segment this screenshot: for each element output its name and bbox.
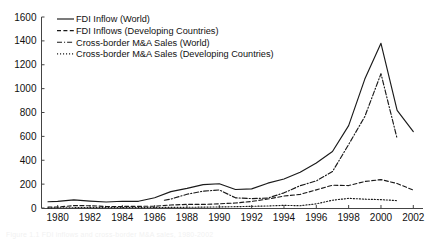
y-axis: 02004006008001000120014001600 [14,12,44,214]
x-tick-label: 1980 [47,212,70,223]
chart-legend: FDI Inflow (World)FDI Inflows (Developin… [57,14,274,59]
legend-label-1: FDI Inflows (Developing Countries) [76,26,218,36]
x-tick-label: 2002 [402,212,425,223]
x-tick-label: 2000 [370,212,393,223]
x-tick-label: 1998 [338,212,361,223]
x-tick-label: 1982 [79,212,102,223]
y-tick-label: 1400 [14,35,37,46]
x-tick-label: 1986 [144,212,167,223]
y-tick-label: 1200 [14,59,37,70]
y-tick-label: 400 [20,155,37,166]
legend-label-0: FDI Inflow (World) [76,14,150,24]
x-tick-label: 1992 [241,212,264,223]
y-axis-tick-labels: 02004006008001000120014001600 [14,12,37,214]
series-line-0 [48,43,413,202]
data-series-group [48,43,413,208]
x-tick-label: 1984 [111,212,134,223]
x-axis-tick-labels: 1980198219841986198819901992199419961998… [47,212,425,223]
y-tick-label: 200 [20,179,37,190]
y-tick-label: 0 [31,203,37,214]
y-tick-label: 1600 [14,12,37,23]
series-line-1 [48,180,413,207]
legend-label-2: Cross-border M&A Sales (World) [76,38,210,48]
y-tick-label: 1000 [14,83,37,94]
y-tick-label: 800 [20,107,37,118]
x-tick-label: 1988 [176,212,199,223]
series-line-2 [164,74,397,201]
x-tick-label: 1990 [208,212,231,223]
figure-container: 02004006008001000120014001600 1980198219… [0,0,429,241]
line-chart: 02004006008001000120014001600 1980198219… [0,0,429,241]
legend-label-3: Cross-border M&A Sales (Developing Count… [76,49,274,59]
y-tick-label: 600 [20,131,37,142]
x-tick-label: 1996 [305,212,328,223]
x-tick-label: 1994 [273,212,296,223]
figure-caption: Figure 1.1 FDI inflows and cross-border … [6,231,213,238]
